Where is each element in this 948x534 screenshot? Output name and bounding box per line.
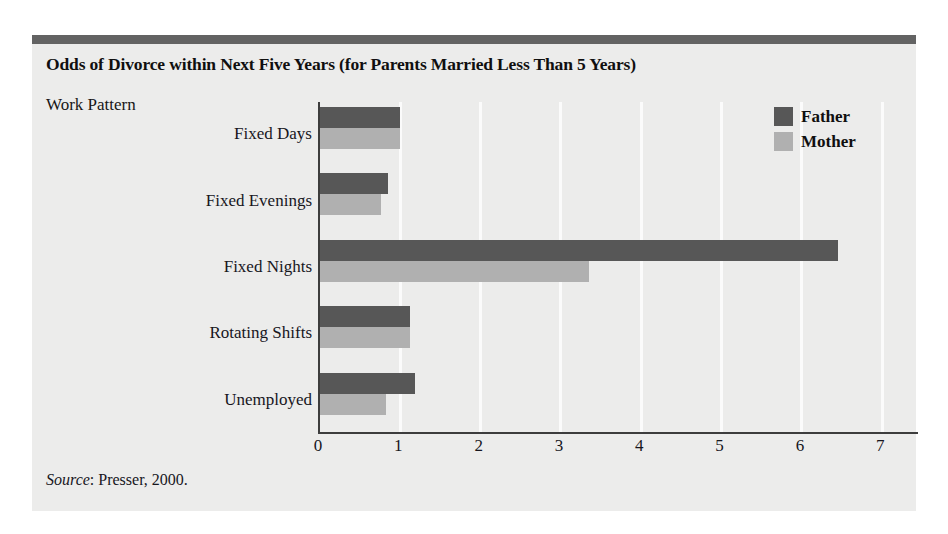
legend-swatch-mother: [774, 132, 793, 151]
bar-father: [320, 173, 388, 194]
bar-mother: [320, 128, 400, 149]
category-label-fixed-evenings: Fixed Evenings: [62, 191, 312, 211]
legend-item-mother: Mother: [774, 129, 856, 154]
bar-mother: [320, 194, 381, 215]
x-tick-label-2: 2: [464, 436, 494, 456]
category-label-fixed-nights: Fixed Nights: [62, 257, 312, 277]
x-tick-label-7: 7: [865, 436, 895, 456]
x-tick-label-0: 0: [303, 436, 333, 456]
bar-mother: [320, 327, 410, 348]
category-label-unemployed: Unemployed: [62, 390, 312, 410]
bar-group: [320, 235, 918, 301]
bar-mother: [320, 261, 589, 282]
category-label-rotating-shifts: Rotating Shifts: [62, 323, 312, 343]
bar-group: [320, 168, 918, 234]
x-tick-label-6: 6: [785, 436, 815, 456]
x-tick-label-1: 1: [383, 436, 413, 456]
category-label-fixed-days: Fixed Days: [62, 124, 312, 144]
x-tick-label-4: 4: [624, 436, 654, 456]
legend: FatherMother: [774, 104, 856, 154]
source-citation: : Presser, 2000.: [90, 471, 188, 488]
bar-father: [320, 306, 410, 327]
source-note: Source: Presser, 2000.: [46, 471, 188, 489]
legend-swatch-father: [774, 107, 793, 126]
bar-group: [320, 368, 918, 434]
x-tick-label-5: 5: [705, 436, 735, 456]
legend-label-mother: Mother: [801, 132, 856, 152]
source-word: Source: [46, 471, 90, 488]
legend-item-father: Father: [774, 104, 856, 129]
bar-group: [320, 301, 918, 367]
bar-father: [320, 240, 838, 261]
legend-label-father: Father: [801, 107, 850, 127]
bar-father: [320, 107, 400, 128]
x-axis-tick-labels: 01234567: [318, 436, 918, 462]
top-rule-decoration: [32, 35, 916, 44]
page-title: Odds of Divorce within Next Five Years (…: [46, 54, 636, 75]
bar-mother: [320, 394, 386, 415]
bar-father: [320, 373, 415, 394]
figure-panel: Odds of Divorce within Next Five Years (…: [32, 35, 916, 511]
category-label-column: Fixed DaysFixed EveningsFixed NightsRota…: [54, 102, 312, 434]
x-tick-label-3: 3: [544, 436, 574, 456]
